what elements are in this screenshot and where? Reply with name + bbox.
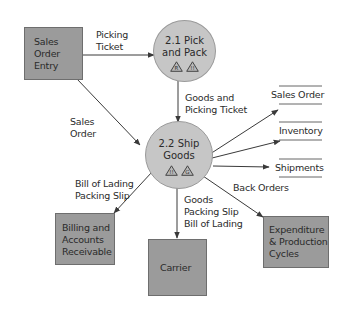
entity-label-line: Carrier bbox=[160, 262, 191, 274]
warning-triangle-icon: !! bbox=[165, 165, 178, 176]
flow-label-sales-order: Order bbox=[70, 128, 96, 140]
store-inventory: Inventory bbox=[279, 125, 323, 137]
entity-label-line: & Production bbox=[269, 236, 328, 248]
flow-label-picking-ticket: Ticket bbox=[96, 41, 123, 53]
flow-to-sales-order-store bbox=[210, 110, 278, 154]
flow-label-goods-carrier: Bill of Lading bbox=[184, 218, 243, 230]
svg-text:!!: !! bbox=[190, 65, 194, 71]
svg-text:R: R bbox=[175, 65, 179, 71]
flow-label-goods-picking-ticket: Picking Ticket bbox=[185, 104, 247, 116]
flow-label-bill-packing: Packing Slip bbox=[75, 190, 130, 202]
warning-triangle-icon: G bbox=[181, 165, 194, 176]
store-shipments: Shipments bbox=[275, 162, 324, 174]
entity-label-line: Accounts bbox=[62, 234, 104, 246]
entity-carrier: Carrier bbox=[148, 239, 207, 296]
process-pick-and-pack: 2.1 Pick and Pack R !! bbox=[153, 20, 216, 82]
flow-to-inventory-store bbox=[212, 141, 280, 158]
flow-label-bill-packing: Bill of Lading bbox=[75, 178, 134, 190]
entity-label-line: Receivable bbox=[62, 246, 112, 258]
entity-label-line: Expenditure bbox=[269, 224, 324, 236]
flow-label-goods-carrier: Goods bbox=[184, 194, 213, 206]
store-sales-order: Sales Order bbox=[271, 89, 324, 101]
process-ship-goods: 2.2 Ship Goods !! G bbox=[145, 121, 213, 189]
entity-sales-order-entry: Sales Order Entry bbox=[24, 27, 83, 80]
process-label-line: 2.1 Pick bbox=[154, 35, 215, 47]
entity-billing-accounts-receivable: Billing and Accounts Receivable bbox=[55, 213, 115, 265]
warning-triangle-icon: !! bbox=[186, 61, 199, 72]
flow-to-shipments-store bbox=[213, 166, 269, 167]
process-label-line: 2.2 Ship bbox=[146, 138, 212, 150]
warning-triangle-icon: R bbox=[170, 61, 183, 72]
flow-label-picking-ticket: Picking bbox=[96, 29, 128, 41]
entity-label-line: Sales bbox=[34, 36, 58, 48]
entity-expenditure-production-cycles: Expenditure & Production Cycles bbox=[263, 216, 329, 268]
flow-label-sales-order: Sales bbox=[70, 116, 94, 128]
svg-text:!!: !! bbox=[169, 169, 173, 175]
entity-label-line: Order bbox=[34, 48, 60, 60]
entity-label-line: Cycles bbox=[269, 248, 299, 260]
flow-label-goods-picking-ticket: Goods and bbox=[185, 92, 234, 104]
entity-label-line: Entry bbox=[34, 60, 58, 72]
process-label-line: Goods bbox=[146, 150, 212, 162]
svg-text:G: G bbox=[185, 169, 189, 175]
process-label-line: and Pack bbox=[154, 47, 215, 59]
entity-label-line: Billing and bbox=[62, 222, 110, 234]
flow-label-back-orders: Back Orders bbox=[233, 182, 289, 194]
flow-label-goods-carrier: Packing Slip bbox=[184, 206, 239, 218]
